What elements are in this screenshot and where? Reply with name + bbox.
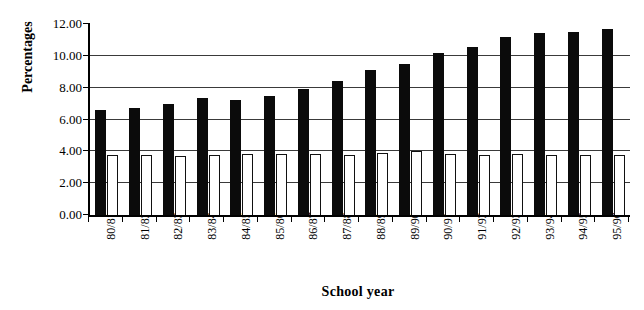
bar-group bbox=[529, 24, 563, 215]
y-axis-tick-label: 6.00 bbox=[30, 113, 82, 126]
bar-series-light bbox=[209, 155, 220, 215]
bar-chart-figure: Percentages 0.002.004.006.008.0010.0012.… bbox=[0, 0, 644, 310]
bar-series-light bbox=[141, 155, 152, 215]
x-axis-tick-label: 94/95 bbox=[577, 212, 589, 239]
y-axis-tick-labels: 0.002.004.006.008.0010.0012.00 bbox=[30, 24, 82, 215]
bar-group bbox=[259, 24, 293, 215]
bar-group bbox=[90, 24, 124, 215]
bar-group bbox=[158, 24, 192, 215]
y-axis-tick bbox=[83, 182, 90, 183]
x-axis-tick bbox=[88, 215, 89, 222]
bar-series-dark bbox=[163, 104, 174, 215]
x-axis-tick bbox=[527, 215, 528, 222]
x-axis-label-cell: 81/82 bbox=[122, 226, 156, 278]
bar-group bbox=[495, 24, 529, 215]
bar-group bbox=[596, 24, 630, 215]
y-axis-tick-label: 0.00 bbox=[30, 208, 82, 221]
bar-series-dark bbox=[197, 98, 208, 215]
x-axis-label-cell: 94/95 bbox=[561, 226, 595, 278]
bar-series-light bbox=[107, 155, 118, 215]
bar-group bbox=[293, 24, 327, 215]
x-axis-tick-label: 92/93 bbox=[510, 212, 522, 239]
bar-series-light bbox=[242, 154, 253, 215]
x-axis-tick-label: 85/86 bbox=[274, 212, 286, 239]
x-axis-tick bbox=[426, 215, 427, 222]
bar-group bbox=[225, 24, 259, 215]
bar-series-dark bbox=[230, 100, 241, 215]
x-axis-tick-label: 83/84 bbox=[206, 212, 218, 239]
x-axis-tick-label: 90/91 bbox=[442, 212, 454, 239]
x-axis-tick-label: 95/96 bbox=[611, 212, 623, 239]
x-axis-label-cell: 87/88 bbox=[324, 226, 358, 278]
x-axis-tick bbox=[122, 215, 123, 222]
bar-series-light bbox=[377, 153, 388, 215]
y-axis-tick-label: 8.00 bbox=[30, 81, 82, 94]
x-axis-title: School year bbox=[88, 284, 628, 300]
x-axis-label-cell: 92/93 bbox=[493, 226, 527, 278]
y-axis-tick bbox=[83, 23, 90, 24]
x-axis-tick bbox=[324, 215, 325, 222]
bar-series-light bbox=[175, 156, 186, 215]
bar-group bbox=[360, 24, 394, 215]
bar-series-dark bbox=[264, 96, 275, 215]
x-axis-label-cell: 82/83 bbox=[156, 226, 190, 278]
bar-series-light bbox=[310, 154, 321, 215]
x-axis-label-cell: 95/96 bbox=[594, 226, 628, 278]
bar-group bbox=[124, 24, 158, 215]
x-axis-tick bbox=[628, 215, 629, 222]
bar-group bbox=[563, 24, 597, 215]
x-axis-tick bbox=[493, 215, 494, 222]
x-axis-tick-label: 84/85 bbox=[240, 212, 252, 239]
bar-series-dark bbox=[298, 89, 309, 215]
x-axis-tick-label: 82/83 bbox=[172, 212, 184, 239]
y-axis-tick bbox=[83, 55, 90, 56]
bar-group bbox=[191, 24, 225, 215]
x-axis-label-cell: 85/86 bbox=[257, 226, 291, 278]
bar-group bbox=[461, 24, 495, 215]
bar-series-light bbox=[546, 155, 557, 215]
bar-series-light bbox=[479, 155, 490, 215]
bar-series-light bbox=[445, 154, 456, 215]
bar-series-dark bbox=[95, 110, 106, 215]
x-axis-tick-label: 88/89 bbox=[375, 212, 387, 239]
x-axis-tick bbox=[156, 215, 157, 222]
x-axis-label-cell: 83/84 bbox=[189, 226, 223, 278]
y-axis-tick-label: 4.00 bbox=[30, 144, 82, 157]
x-axis-tick bbox=[257, 215, 258, 222]
bar-series-dark bbox=[602, 29, 613, 215]
x-axis-tick bbox=[189, 215, 190, 222]
plot-area bbox=[88, 24, 630, 217]
y-axis-tick bbox=[83, 119, 90, 120]
y-axis-tick bbox=[83, 150, 90, 151]
bar-series-dark bbox=[500, 37, 511, 215]
x-axis-label-cell: 80/81 bbox=[88, 226, 122, 278]
x-axis-tick bbox=[594, 215, 595, 222]
bar-series-light bbox=[344, 155, 355, 215]
x-axis-label-cell: 90/91 bbox=[426, 226, 460, 278]
x-axis-label-cell: 86/87 bbox=[291, 226, 325, 278]
y-axis-tick-label: 2.00 bbox=[30, 176, 82, 189]
y-axis-tick bbox=[83, 87, 90, 88]
bar-series-light bbox=[580, 155, 591, 215]
x-axis-tick bbox=[291, 215, 292, 222]
bar-series-dark bbox=[399, 64, 410, 215]
x-axis-tick-label: 89/90 bbox=[409, 212, 421, 239]
x-axis-tick-label: 80/81 bbox=[105, 212, 117, 239]
x-axis-tick bbox=[223, 215, 224, 222]
bar-group bbox=[326, 24, 360, 215]
x-axis-tick-label: 86/87 bbox=[307, 212, 319, 239]
bar-series-dark bbox=[433, 53, 444, 215]
x-axis-label-cell: 88/89 bbox=[358, 226, 392, 278]
x-axis-label-cell: 91/92 bbox=[459, 226, 493, 278]
bar-series-dark bbox=[467, 47, 478, 215]
bar-series-light bbox=[614, 155, 625, 215]
x-axis-tick-label: 81/82 bbox=[139, 212, 151, 239]
bar-series-dark bbox=[365, 70, 376, 215]
x-axis-tick-label: 93/94 bbox=[544, 212, 556, 239]
bar-series-dark bbox=[129, 108, 140, 215]
y-axis-tick-label: 12.00 bbox=[30, 17, 82, 30]
x-axis-label-cell: 93/94 bbox=[527, 226, 561, 278]
bar-series-dark bbox=[332, 81, 343, 215]
bar-series-light bbox=[276, 154, 287, 215]
bar-groups bbox=[90, 24, 630, 215]
